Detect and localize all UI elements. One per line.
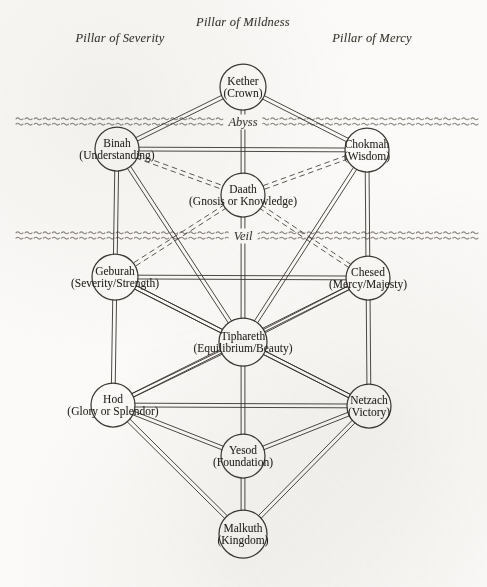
sephirah-chesed[interactable]	[346, 256, 390, 300]
sephirah-kether[interactable]	[220, 64, 266, 110]
path-geburah-chesed[interactable]	[136, 275, 347, 280]
path-binah-chokmah[interactable]	[137, 147, 346, 152]
sephirah-daath[interactable]	[221, 173, 265, 217]
sephirah-geburah[interactable]	[92, 254, 138, 300]
path-hod-yesod[interactable]	[131, 411, 224, 451]
path-kether-binah[interactable]	[135, 95, 225, 142]
tree-of-life-diagram: Pillar of Severity Pillar of Mildness Pi…	[0, 0, 487, 587]
path-geburah-tiphareth[interactable]	[133, 285, 223, 333]
sephirah-binah[interactable]	[95, 127, 139, 171]
sephirah-netzach[interactable]	[347, 384, 391, 428]
path-binah-daath[interactable]	[136, 154, 225, 190]
band-label-abyss: Abyss	[223, 115, 262, 130]
path-tiphareth-netzach[interactable]	[262, 351, 351, 399]
path-tiphareth-yesod[interactable]	[241, 365, 245, 436]
path-binah-geburah[interactable]	[113, 169, 118, 255]
path-tiphareth-hod[interactable]	[131, 350, 224, 398]
path-chokmah-daath[interactable]	[262, 155, 349, 190]
path-geburah-hod[interactable]	[111, 298, 116, 384]
path-netzach-malkuth[interactable]	[257, 419, 356, 519]
pillar-label-mildness: Pillar of Mildness	[196, 15, 290, 30]
path-yesod-malkuth[interactable]	[241, 477, 245, 512]
path-chesed-netzach[interactable]	[366, 298, 370, 385]
path-daath-chesed[interactable]	[259, 205, 352, 268]
path-hod-malkuth[interactable]	[126, 418, 228, 519]
path-chokmah-chesed[interactable]	[365, 170, 369, 257]
path-netzach-yesod[interactable]	[261, 412, 350, 450]
sephirah-yesod[interactable]	[221, 434, 265, 478]
path-daath-geburah[interactable]	[132, 204, 227, 267]
pillar-label-mercy: Pillar of Mercy	[332, 31, 412, 46]
sephirah-tiphareth[interactable]	[219, 318, 267, 366]
sephirah-hod[interactable]	[91, 383, 135, 427]
pillar-label-severity: Pillar of Severity	[76, 31, 165, 46]
sephirah-chokmah[interactable]	[345, 128, 389, 172]
band-label-veil: Veil	[229, 229, 258, 244]
sephirah-malkuth[interactable]	[219, 510, 267, 558]
path-binah-tiphareth[interactable]	[127, 165, 233, 324]
path-chokmah-tiphareth[interactable]	[254, 166, 358, 324]
